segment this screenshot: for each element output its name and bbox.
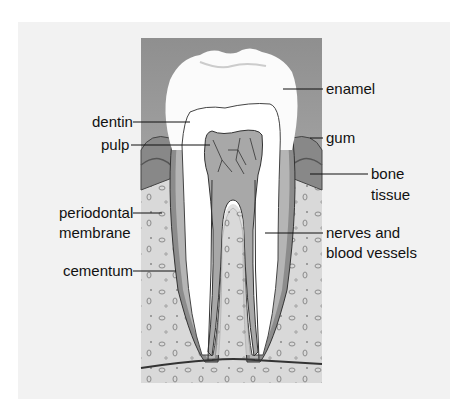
label-enamel: enamel — [326, 80, 375, 97]
label-nerves-1: nerves and — [326, 224, 400, 241]
label-dentin: dentin — [92, 113, 133, 130]
label-gum: gum — [326, 129, 355, 146]
label-pulp: pulp — [101, 136, 129, 153]
label-bone-tissue-1: bone — [371, 165, 404, 182]
label-bone-tissue-2: tissue — [371, 186, 410, 203]
label-cementum: cementum — [63, 262, 133, 279]
label-periodontal-1: periodontal — [59, 204, 133, 221]
label-nerves-2: blood vessels — [326, 244, 417, 261]
label-periodontal-2: membrane — [59, 224, 131, 241]
